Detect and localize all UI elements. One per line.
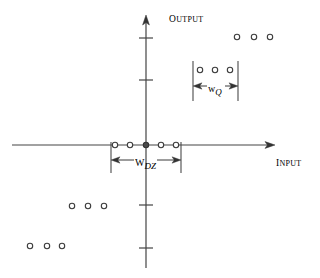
x-axis-label-rest: NPUT — [279, 159, 301, 168]
y-axis-label-output: OUTPUT — [169, 8, 203, 26]
point-group-upper-right-quantization-step — [197, 67, 232, 72]
data-point — [101, 203, 106, 208]
quantization-step-width-label-subscript: Q — [215, 87, 222, 97]
point-group-lower-left-quantization-step — [69, 203, 106, 208]
data-point — [197, 67, 202, 72]
x-axis-label-input: INPUT — [276, 152, 302, 170]
data-point — [27, 243, 32, 248]
data-point — [112, 142, 117, 147]
data-point — [173, 142, 178, 147]
data-point — [212, 67, 217, 72]
data-point — [267, 34, 272, 39]
data-point — [85, 203, 90, 208]
figure-quantizer-dead-zone-plot: OUTPUT INPUT WDZ wQ — [0, 0, 320, 278]
data-point — [234, 34, 239, 39]
dead-zone-width-label-subscript: DZ — [144, 161, 156, 171]
data-point — [44, 243, 49, 248]
data-point — [69, 203, 74, 208]
data-point — [127, 142, 132, 147]
data-point — [227, 67, 232, 72]
data-point — [158, 142, 163, 147]
y-axis-label-rest: UTPUT — [176, 15, 203, 24]
dead-zone-width-label: WDZ — [135, 152, 156, 170]
data-point-origin — [143, 142, 148, 147]
data-point — [251, 34, 256, 39]
point-group-upper-right-staircase-level — [234, 34, 272, 39]
point-group-lower-left-staircase-level — [27, 243, 64, 248]
plot-canvas — [0, 0, 320, 278]
data-point — [59, 243, 64, 248]
vertical-axis-group — [139, 15, 153, 268]
quantization-step-width-label: wQ — [208, 78, 222, 96]
